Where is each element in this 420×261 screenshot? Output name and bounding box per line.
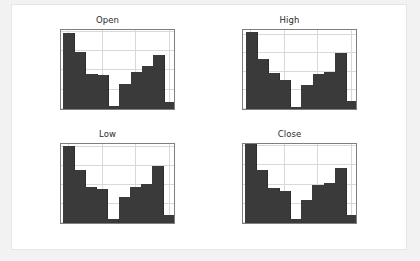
y-axis-tick-mark: [60, 33, 61, 34]
subplot-high: High050100150200100200300400: [212, 15, 367, 128]
x-axis-tick-mark: [135, 223, 136, 224]
y-axis-tick-mark: [242, 36, 243, 37]
y-axis-tick-mark: [242, 148, 243, 149]
gridline-horizontal: [243, 145, 356, 146]
subplot-title: High: [212, 15, 367, 25]
y-axis-tick-mark: [242, 92, 243, 93]
x-axis-tick-mark: [317, 109, 318, 110]
plot-area: 050100150200100200300400: [242, 29, 357, 110]
subplot-title: Open: [30, 15, 185, 25]
histogram-bar: [153, 55, 165, 109]
plot-area: 050100150200100200300400: [60, 143, 175, 224]
gridline-horizontal: [61, 146, 174, 147]
x-axis-tick-mark: [317, 223, 318, 224]
figure-card: Open050100150200100200300400High05010015…: [11, 4, 407, 250]
y-axis-tick-mark: [242, 186, 243, 187]
gridline-vertical: [169, 30, 170, 109]
gridline-vertical: [351, 30, 352, 109]
histogram-bar: [346, 101, 357, 109]
x-axis-tick-mark: [250, 109, 251, 110]
subplot-low: Low050100150200100200300400: [30, 129, 185, 242]
y-axis-tick-mark: [242, 205, 243, 206]
plot-area: 050100150200100200300400: [60, 29, 175, 110]
histogram-figure: Open050100150200100200300400High05010015…: [12, 5, 406, 249]
gridline-horizontal: [243, 34, 356, 35]
plot-area: 050100150200100200300400: [242, 143, 357, 224]
x-axis-tick-mark: [350, 223, 351, 224]
y-axis-tick-mark: [60, 186, 61, 187]
gridline-vertical: [169, 144, 170, 223]
x-axis-tick-mark: [250, 223, 251, 224]
subplot-title: Low: [30, 129, 185, 139]
histogram-bar: [346, 215, 357, 223]
gridline-horizontal: [61, 31, 174, 32]
x-axis-tick-mark: [168, 223, 169, 224]
y-axis-tick-mark: [242, 167, 243, 168]
x-axis-tick-mark: [168, 109, 169, 110]
y-axis-tick-mark: [60, 72, 61, 73]
subplot-close: Close050100150200100200300400: [212, 129, 367, 242]
histogram-bar: [164, 102, 175, 109]
subplot-open: Open050100150200100200300400: [30, 15, 185, 128]
subplot-title: Close: [212, 129, 367, 139]
y-axis-tick-mark: [60, 148, 61, 149]
x-axis-tick-mark: [135, 109, 136, 110]
y-axis-tick-mark: [60, 167, 61, 168]
gridline-vertical: [351, 144, 352, 223]
x-axis-tick-mark: [68, 223, 69, 224]
x-axis-tick-mark: [101, 109, 102, 110]
gridline-horizontal: [61, 50, 174, 51]
x-axis-tick-mark: [68, 109, 69, 110]
y-axis-tick-mark: [242, 73, 243, 74]
x-axis-tick-mark: [283, 223, 284, 224]
histogram-bar: [163, 215, 175, 223]
y-axis-tick-mark: [60, 53, 61, 54]
y-axis-tick-mark: [60, 205, 61, 206]
x-axis-tick-mark: [283, 109, 284, 110]
y-axis-tick-mark: [242, 55, 243, 56]
x-axis-tick-mark: [350, 109, 351, 110]
gridline-horizontal: [243, 164, 356, 165]
histogram-bar: [97, 75, 109, 109]
y-axis-tick-mark: [60, 91, 61, 92]
x-axis-tick-mark: [101, 223, 102, 224]
histogram-bar: [279, 80, 291, 109]
